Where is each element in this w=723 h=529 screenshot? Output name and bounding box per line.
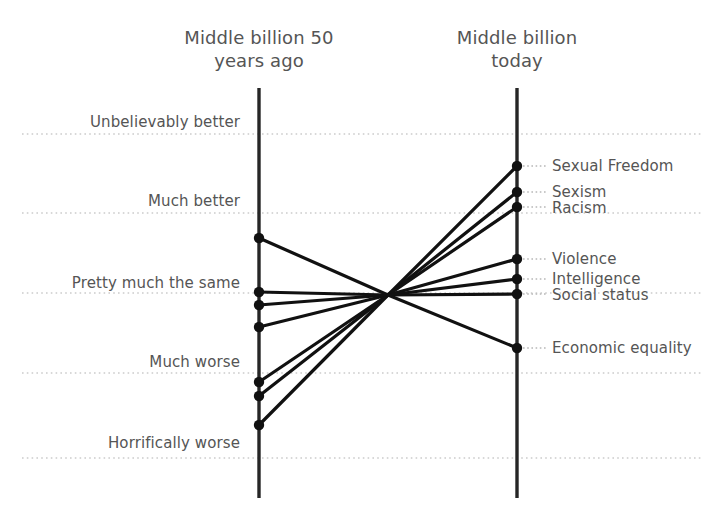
slope-lines xyxy=(259,166,517,425)
scale-label: Much better xyxy=(0,192,240,210)
series-label: Racism xyxy=(552,199,607,217)
data-dot-right xyxy=(512,187,522,197)
data-dot-left xyxy=(254,377,264,387)
label-leader-lines xyxy=(523,166,548,348)
series-label: Social status xyxy=(552,286,649,304)
scale-label: Horrifically worse xyxy=(0,434,240,452)
data-dot-right xyxy=(512,202,522,212)
data-dot-right xyxy=(512,289,522,299)
data-dot-left xyxy=(254,391,264,401)
data-dot-right xyxy=(512,161,522,171)
data-dot-left xyxy=(254,233,264,243)
data-dot-right xyxy=(512,343,522,353)
data-dot-left xyxy=(254,287,264,297)
data-dot-right xyxy=(512,274,522,284)
scale-label: Pretty much the same xyxy=(0,274,240,292)
scale-label: Much worse xyxy=(0,353,240,371)
slope-chart: Middle billion 50 years ago Middle billi… xyxy=(0,0,723,529)
data-dot-left xyxy=(254,420,264,430)
scale-label: Unbelievably better xyxy=(0,113,240,131)
data-dot-left xyxy=(254,300,264,310)
series-label: Economic equality xyxy=(552,339,692,357)
data-dot-right xyxy=(512,254,522,264)
data-dot-left xyxy=(254,322,264,332)
series-label: Sexual Freedom xyxy=(552,157,674,175)
series-label: Violence xyxy=(552,250,616,268)
